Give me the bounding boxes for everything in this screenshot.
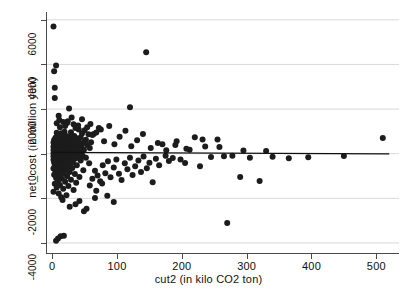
data-point — [65, 183, 71, 189]
data-point — [87, 145, 93, 151]
data-point — [52, 95, 58, 101]
data-point — [83, 155, 89, 161]
data-point — [93, 188, 99, 194]
data-point — [73, 180, 79, 186]
y-axis-title: net_cost (in million yen) — [27, 48, 38, 228]
data-point — [79, 116, 85, 122]
data-point — [216, 144, 222, 150]
data-point — [116, 171, 122, 177]
data-point — [214, 136, 220, 142]
data-point — [183, 146, 189, 152]
data-point — [60, 186, 66, 192]
data-point — [89, 176, 95, 182]
x-tick-label: 0 — [49, 261, 55, 272]
scatter-plot-figure: -4000-20000200040006000 0100200300400500… — [0, 0, 407, 289]
data-point — [163, 153, 169, 159]
data-point — [111, 165, 117, 171]
x-tick-label: 100 — [108, 261, 127, 272]
data-point — [73, 201, 79, 207]
data-point — [104, 193, 110, 199]
x-axis-title: cut2 (in kilo CO2 ton) — [0, 274, 407, 285]
data-point — [119, 177, 125, 183]
data-point — [144, 165, 150, 171]
data-point — [286, 155, 292, 161]
data-point — [148, 145, 154, 151]
data-point — [111, 141, 117, 147]
data-point — [92, 195, 98, 201]
data-point — [80, 167, 86, 173]
data-point — [52, 85, 58, 91]
data-point — [100, 162, 106, 168]
data-point — [60, 197, 66, 203]
data-point — [117, 134, 123, 140]
data-point — [172, 142, 178, 148]
data-point — [141, 153, 147, 159]
data-point — [208, 154, 214, 160]
data-point — [192, 134, 198, 140]
data-point — [124, 166, 130, 172]
data-point — [200, 136, 206, 142]
y-tick-mark — [41, 109, 46, 110]
data-point — [66, 106, 72, 112]
data-point — [102, 170, 108, 176]
data-point — [50, 189, 56, 195]
x-tick-label: 200 — [172, 261, 191, 272]
data-point — [197, 163, 203, 169]
data-point — [135, 157, 141, 163]
data-point — [61, 233, 67, 239]
x-tick-mark — [52, 254, 53, 259]
data-point — [101, 138, 107, 144]
data-point — [132, 163, 138, 169]
data-point — [68, 177, 74, 183]
data-point — [380, 135, 386, 141]
data-point — [56, 117, 62, 123]
data-point — [122, 160, 128, 166]
x-tick-mark — [311, 254, 312, 259]
data-point — [87, 182, 93, 188]
data-point — [93, 130, 99, 136]
data-point — [50, 24, 56, 30]
data-point — [122, 128, 128, 134]
data-point — [75, 123, 81, 129]
data-point — [221, 153, 227, 159]
data-point — [182, 160, 188, 166]
data-point — [108, 174, 114, 180]
data-point — [53, 63, 59, 69]
data-point — [257, 178, 263, 184]
data-points — [50, 24, 385, 244]
data-point — [105, 158, 111, 164]
data-point — [127, 104, 133, 110]
data-point — [134, 137, 140, 143]
data-point — [155, 140, 161, 146]
data-point — [146, 160, 152, 166]
data-point — [63, 192, 69, 198]
data-point — [305, 154, 311, 160]
plot-canvas — [47, 12, 399, 253]
data-point — [202, 144, 208, 150]
data-point — [51, 68, 57, 74]
x-tick-label: 400 — [302, 261, 321, 272]
data-point — [86, 160, 92, 166]
data-point — [156, 162, 162, 168]
y-tick-mark — [41, 20, 46, 21]
data-point — [78, 157, 84, 163]
x-tick-mark — [182, 254, 183, 259]
x-tick-label: 300 — [237, 261, 256, 272]
data-point — [153, 156, 159, 162]
y-tick-mark — [41, 154, 46, 155]
data-point — [92, 168, 98, 174]
data-point — [128, 143, 134, 149]
data-point — [106, 123, 112, 129]
data-point — [170, 155, 176, 161]
y-tick-mark — [41, 243, 46, 244]
data-point — [111, 199, 117, 205]
data-point — [247, 155, 253, 161]
y-tick-mark — [41, 198, 46, 199]
data-point — [127, 155, 133, 161]
data-point — [99, 181, 105, 187]
x-tick-mark — [117, 254, 118, 259]
data-point — [71, 187, 77, 193]
y-tick-mark — [41, 64, 46, 65]
data-point — [237, 174, 243, 180]
data-point — [138, 169, 144, 175]
